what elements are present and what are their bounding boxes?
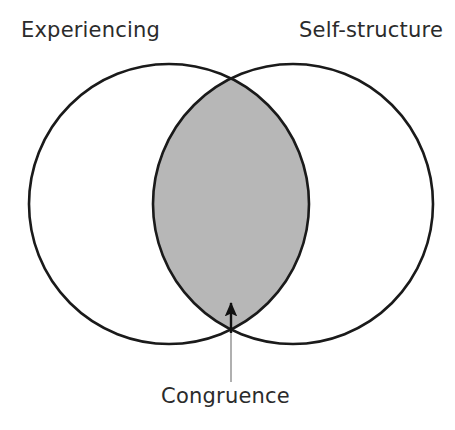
right-circle-label: Self-structure — [299, 20, 443, 41]
overlap-region-fill — [153, 64, 433, 344]
venn-diagram-canvas: Experiencing Self-structure Congruence — [0, 0, 455, 430]
overlap-label: Congruence — [0, 386, 455, 407]
venn-diagram-graphic — [0, 0, 455, 430]
left-circle-label: Experiencing — [21, 20, 160, 41]
